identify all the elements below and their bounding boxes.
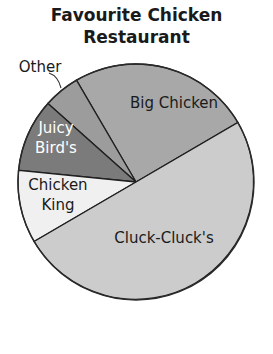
slice-label-big-chicken: Big Chicken	[130, 94, 218, 112]
pie-chart: Big ChickenOtherJuicyBird'sChickenKingCl…	[0, 0, 273, 354]
slice-label-other: Other	[19, 58, 62, 76]
slice-label-cluck-cluck-s: Cluck-Cluck's	[114, 229, 214, 247]
